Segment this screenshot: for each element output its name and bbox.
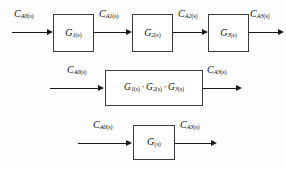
signal-label-ca3-row3: CA3(s) bbox=[180, 120, 200, 130]
signal-argument: (s) bbox=[112, 12, 119, 19]
signal-label-ca0-row1: CA0(s) bbox=[14, 9, 34, 19]
arrow-line-input-g1 bbox=[12, 32, 47, 33]
signal-argument: (s) bbox=[263, 12, 270, 19]
block-g-label: G(s) bbox=[147, 137, 161, 147]
signal-label-ca1-row1: CA1(s) bbox=[99, 9, 119, 19]
signal-base: C bbox=[180, 119, 187, 130]
signal-argument: (s) bbox=[80, 68, 87, 75]
arrow-line-output-combined bbox=[175, 143, 211, 144]
signal-base: C bbox=[67, 64, 74, 75]
signal-base: C bbox=[207, 64, 214, 75]
signal-argument: (s) bbox=[106, 123, 113, 130]
block-diagram-canvas: CA0(s) G1(s) CA1(s) G2(s) CA2(s) G3(s) C… bbox=[0, 0, 286, 169]
arrow-head-output-g3 bbox=[278, 29, 284, 35]
signal-label-ca3-row1: CA3(s) bbox=[250, 9, 270, 19]
arrow-line-input-product bbox=[50, 88, 98, 89]
signal-label-ca2-row1: CA2(s) bbox=[178, 9, 198, 19]
arrow-line-g2-to-g3 bbox=[173, 32, 202, 33]
signal-label-ca3-row2: CA3(s) bbox=[207, 65, 227, 75]
block-g1g2g3: G1(s)·G2(s)·G3(s) bbox=[105, 70, 203, 106]
block-g3-label: G3(s) bbox=[220, 28, 237, 38]
arrow-line-output-product bbox=[203, 88, 236, 89]
signal-argument: (s) bbox=[220, 68, 227, 75]
signal-base: C bbox=[14, 8, 21, 19]
block-g1-label: G1(s) bbox=[65, 28, 82, 38]
signal-base: C bbox=[93, 119, 100, 130]
arrow-head-input-combined bbox=[126, 140, 132, 146]
signal-argument: (s) bbox=[191, 12, 198, 19]
arrow-head-output-product bbox=[236, 85, 242, 91]
block-g: G(s) bbox=[133, 125, 175, 160]
signal-label-ca0-row2: CA0(s) bbox=[67, 65, 87, 75]
block-g2: G2(s) bbox=[132, 14, 173, 52]
block-g2-label: G2(s) bbox=[144, 28, 161, 38]
signal-label-ca0-row3: CA0(s) bbox=[93, 120, 113, 130]
signal-base: C bbox=[250, 8, 257, 19]
arrow-line-input-combined bbox=[78, 143, 126, 144]
block-g1g2g3-label: G1(s)·G2(s)·G3(s) bbox=[124, 83, 184, 93]
arrow-head-output-combined bbox=[211, 140, 217, 146]
arrow-line-output-g3 bbox=[249, 32, 278, 33]
arrow-head-input-product bbox=[98, 85, 104, 91]
signal-argument: (s) bbox=[193, 123, 200, 130]
block-g1: G1(s) bbox=[53, 14, 94, 52]
block-g3: G3(s) bbox=[208, 14, 249, 52]
signal-argument: (s) bbox=[27, 12, 34, 19]
arrow-line-g1-to-g2 bbox=[94, 32, 126, 33]
signal-base: C bbox=[99, 8, 106, 19]
signal-base: C bbox=[178, 8, 185, 19]
